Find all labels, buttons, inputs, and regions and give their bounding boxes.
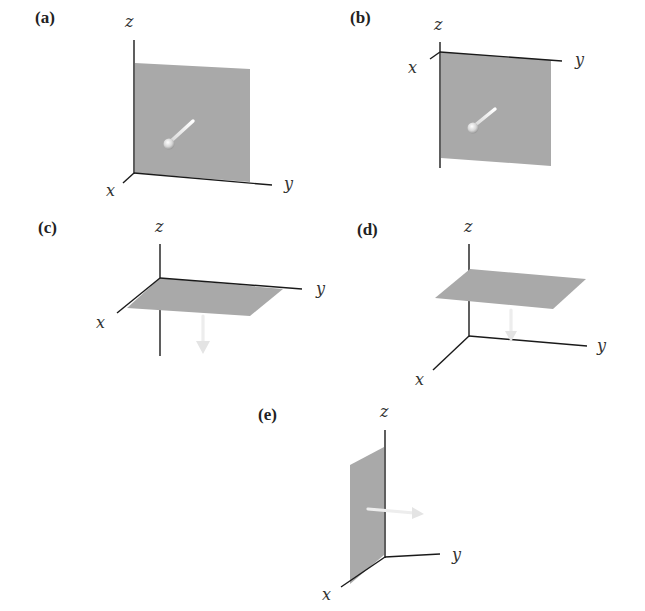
z-axis-label: z xyxy=(124,12,134,31)
panel-label: (c) xyxy=(38,218,57,237)
y-axis-label: y xyxy=(451,545,462,564)
y-axis-label: y xyxy=(315,279,326,298)
z-axis-label: z xyxy=(433,15,443,34)
panel-a: (a) z x y xyxy=(35,8,294,200)
x-axis xyxy=(433,336,469,370)
y-axis-label: y xyxy=(574,50,585,69)
normal-vector-icon xyxy=(505,310,517,342)
panel-d: (d) z x y xyxy=(357,217,607,389)
y-axis-label: y xyxy=(596,336,607,355)
panel-c: (c) z x y xyxy=(38,217,326,356)
y-axis-label: y xyxy=(283,174,294,193)
panel-b: (b) z x y xyxy=(350,8,585,168)
z-axis-label: z xyxy=(154,217,164,236)
figure-canvas: (a) z x y (b) z x y (c) z x xyxy=(0,0,645,611)
plane xyxy=(435,269,586,309)
plane xyxy=(127,278,283,316)
x-axis xyxy=(123,173,134,183)
panel-label: (d) xyxy=(357,220,378,239)
x-axis-label: x xyxy=(96,313,105,332)
z-axis-label: z xyxy=(463,217,473,236)
y-axis xyxy=(469,336,587,346)
panel-e: (e) z x y xyxy=(258,402,462,604)
panel-label: (e) xyxy=(258,405,277,424)
z-axis-label: z xyxy=(379,402,389,421)
x-axis-label: x xyxy=(415,370,424,389)
panel-label: (a) xyxy=(35,8,55,27)
x-axis-label: x xyxy=(106,181,115,200)
panel-label: (b) xyxy=(350,8,371,27)
x-axis-label: x xyxy=(408,58,417,77)
y-axis xyxy=(385,554,440,557)
x-axis-label: x xyxy=(322,585,331,604)
plane xyxy=(350,447,384,584)
normal-vector-icon xyxy=(196,316,210,354)
x-axis xyxy=(430,52,440,59)
